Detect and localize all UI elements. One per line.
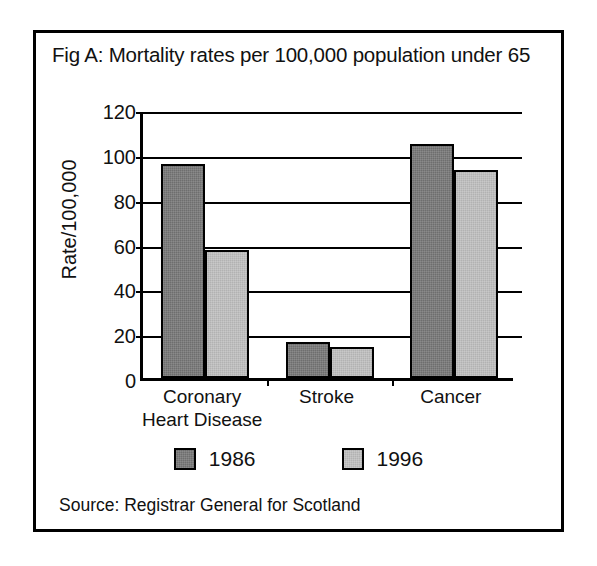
chart-gridline bbox=[143, 112, 513, 114]
chart-legend: 19861996 bbox=[36, 447, 561, 471]
y-axis-tick-mark bbox=[136, 202, 143, 204]
figure-frame: Fig A: Mortality rates per 100,000 popul… bbox=[33, 30, 564, 532]
legend-label: 1996 bbox=[377, 447, 424, 471]
chart-gridline bbox=[143, 157, 513, 159]
legend-item-1996: 1996 bbox=[342, 447, 424, 471]
bar-coronary-heart-disease-1986 bbox=[161, 164, 205, 378]
y-axis-tick-label: 80 bbox=[74, 192, 136, 212]
y-axis-tick-mark bbox=[136, 247, 143, 249]
y-axis-tick-mark bbox=[136, 112, 143, 114]
light-grey-swatch bbox=[342, 448, 364, 470]
bar-cancer-1986 bbox=[410, 144, 454, 378]
y-axis-tick-label: 120 bbox=[74, 102, 136, 122]
y-axis-tick-mark-right bbox=[513, 336, 522, 338]
y-axis-tick-label: 60 bbox=[74, 237, 136, 257]
chart-plot-wrapper: Rate/100,000 020406080100120 CoronaryHea… bbox=[36, 33, 561, 529]
y-axis-tick-mark bbox=[136, 291, 143, 293]
y-axis-tick-mark-right bbox=[513, 291, 522, 293]
y-axis-tick-label: 40 bbox=[74, 281, 136, 301]
y-axis-tick-label: 100 bbox=[74, 147, 136, 167]
bar-cancer-1996 bbox=[454, 170, 498, 378]
y-axis-tick-mark-right bbox=[513, 157, 522, 159]
x-axis-category-label-line: Cancer bbox=[369, 385, 533, 408]
y-axis-tick-mark bbox=[136, 336, 143, 338]
legend-label: 1986 bbox=[209, 447, 256, 471]
x-axis-category-label-line: Heart Disease bbox=[120, 408, 284, 431]
bar-stroke-1986 bbox=[286, 342, 330, 378]
plot-area bbox=[140, 112, 513, 381]
y-axis-tick-label: 20 bbox=[74, 326, 136, 346]
x-axis-category-label: Cancer bbox=[369, 385, 533, 408]
y-axis-tick-mark-right bbox=[513, 112, 522, 114]
y-axis-tick-labels: 020406080100120 bbox=[74, 108, 136, 380]
dark-grey-swatch bbox=[174, 448, 196, 470]
legend-item-1986: 1986 bbox=[174, 447, 256, 471]
source-note: Source: Registrar General for Scotland bbox=[59, 495, 361, 516]
y-axis-tick-mark-right bbox=[513, 247, 522, 249]
bar-coronary-heart-disease-1996 bbox=[205, 250, 249, 378]
plot-inner bbox=[143, 112, 513, 378]
y-axis-tick-mark bbox=[136, 157, 143, 159]
y-axis-tick-mark-right bbox=[513, 202, 522, 204]
bar-stroke-1996 bbox=[330, 347, 374, 378]
